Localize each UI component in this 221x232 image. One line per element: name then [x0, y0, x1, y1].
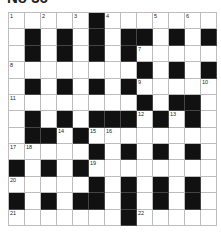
- grid-cell[interactable]: 17: [9, 144, 25, 160]
- grid-cell[interactable]: [25, 210, 41, 226]
- grid-cell[interactable]: [121, 95, 137, 111]
- grid-cell[interactable]: [41, 95, 57, 111]
- grid-cell[interactable]: [169, 79, 185, 95]
- grid-cell[interactable]: [137, 128, 153, 144]
- grid-cell[interactable]: [73, 62, 89, 78]
- grid-cell[interactable]: [201, 95, 217, 111]
- grid-cell[interactable]: [9, 29, 25, 45]
- grid-cell[interactable]: 5: [153, 13, 169, 29]
- grid-cell[interactable]: [201, 128, 217, 144]
- grid-cell[interactable]: [137, 193, 153, 209]
- grid-cell[interactable]: [73, 95, 89, 111]
- grid-cell[interactable]: [89, 95, 105, 111]
- grid-cell[interactable]: [201, 160, 217, 176]
- grid-cell[interactable]: [185, 160, 201, 176]
- grid-cell[interactable]: 4: [105, 13, 121, 29]
- grid-cell[interactable]: 13: [169, 111, 185, 127]
- grid-cell[interactable]: [169, 46, 185, 62]
- grid-cell[interactable]: [57, 62, 73, 78]
- grid-cell[interactable]: [25, 13, 41, 29]
- grid-cell[interactable]: [105, 210, 121, 226]
- grid-cell[interactable]: [185, 79, 201, 95]
- grid-cell[interactable]: 8: [9, 62, 25, 78]
- grid-cell[interactable]: [169, 177, 185, 193]
- grid-cell[interactable]: [201, 144, 217, 160]
- grid-cell[interactable]: [105, 62, 121, 78]
- grid-cell[interactable]: [121, 13, 137, 29]
- grid-cell[interactable]: 7: [137, 46, 153, 62]
- grid-cell[interactable]: [121, 62, 137, 78]
- grid-cell[interactable]: [9, 46, 25, 62]
- grid-cell[interactable]: [201, 193, 217, 209]
- grid-cell[interactable]: [105, 29, 121, 45]
- grid-cell[interactable]: [185, 128, 201, 144]
- grid-cell[interactable]: [73, 111, 89, 127]
- grid-cell[interactable]: [201, 177, 217, 193]
- grid-cell[interactable]: [57, 144, 73, 160]
- grid-cell[interactable]: [105, 160, 121, 176]
- grid-cell[interactable]: 22: [137, 210, 153, 226]
- grid-cell[interactable]: [25, 193, 41, 209]
- grid-cell[interactable]: [73, 144, 89, 160]
- grid-cell[interactable]: [137, 13, 153, 29]
- grid-cell[interactable]: [169, 160, 185, 176]
- grid-cell[interactable]: [25, 95, 41, 111]
- grid-cell[interactable]: [137, 177, 153, 193]
- grid-cell[interactable]: [201, 13, 217, 29]
- grid-cell[interactable]: [89, 62, 105, 78]
- grid-cell[interactable]: [153, 160, 169, 176]
- grid-cell[interactable]: [57, 210, 73, 226]
- grid-cell[interactable]: [169, 144, 185, 160]
- grid-cell[interactable]: [137, 144, 153, 160]
- grid-cell[interactable]: [25, 62, 41, 78]
- grid-cell[interactable]: [41, 79, 57, 95]
- grid-cell[interactable]: [9, 111, 25, 127]
- grid-cell[interactable]: [185, 62, 201, 78]
- grid-cell[interactable]: [169, 210, 185, 226]
- grid-cell[interactable]: [105, 46, 121, 62]
- grid-cell[interactable]: [105, 193, 121, 209]
- grid-cell[interactable]: 2: [41, 13, 57, 29]
- grid-cell[interactable]: [105, 144, 121, 160]
- grid-cell[interactable]: [73, 46, 89, 62]
- grid-cell[interactable]: [201, 210, 217, 226]
- grid-cell[interactable]: [9, 79, 25, 95]
- grid-cell[interactable]: 21: [9, 210, 25, 226]
- grid-cell[interactable]: [105, 95, 121, 111]
- grid-cell[interactable]: 12: [137, 111, 153, 127]
- grid-cell[interactable]: [121, 128, 137, 144]
- grid-cell[interactable]: [121, 160, 137, 176]
- grid-cell[interactable]: [41, 46, 57, 62]
- grid-cell[interactable]: [153, 210, 169, 226]
- grid-cell[interactable]: [41, 177, 57, 193]
- grid-cell[interactable]: 1: [9, 13, 25, 29]
- grid-cell[interactable]: [169, 13, 185, 29]
- grid-cell[interactable]: [153, 128, 169, 144]
- grid-cell[interactable]: [57, 160, 73, 176]
- grid-cell[interactable]: 18: [25, 144, 41, 160]
- grid-cell[interactable]: [41, 210, 57, 226]
- grid-cell[interactable]: [41, 111, 57, 127]
- grid-cell[interactable]: [185, 210, 201, 226]
- grid-cell[interactable]: [169, 193, 185, 209]
- grid-cell[interactable]: [25, 160, 41, 176]
- grid-cell[interactable]: [57, 13, 73, 29]
- grid-cell[interactable]: [73, 210, 89, 226]
- grid-cell[interactable]: [57, 177, 73, 193]
- grid-cell[interactable]: [89, 210, 105, 226]
- grid-cell[interactable]: 9: [137, 79, 153, 95]
- grid-cell[interactable]: [153, 79, 169, 95]
- grid-cell[interactable]: 3: [73, 13, 89, 29]
- grid-cell[interactable]: [105, 79, 121, 95]
- grid-cell[interactable]: 15: [89, 128, 105, 144]
- grid-cell[interactable]: 6: [185, 13, 201, 29]
- grid-cell[interactable]: [153, 29, 169, 45]
- grid-cell[interactable]: 20: [9, 177, 25, 193]
- grid-cell[interactable]: [41, 62, 57, 78]
- grid-cell[interactable]: [105, 177, 121, 193]
- grid-cell[interactable]: [153, 62, 169, 78]
- grid-cell[interactable]: 11: [9, 95, 25, 111]
- grid-cell[interactable]: [73, 29, 89, 45]
- grid-cell[interactable]: [153, 46, 169, 62]
- grid-cell[interactable]: [185, 29, 201, 45]
